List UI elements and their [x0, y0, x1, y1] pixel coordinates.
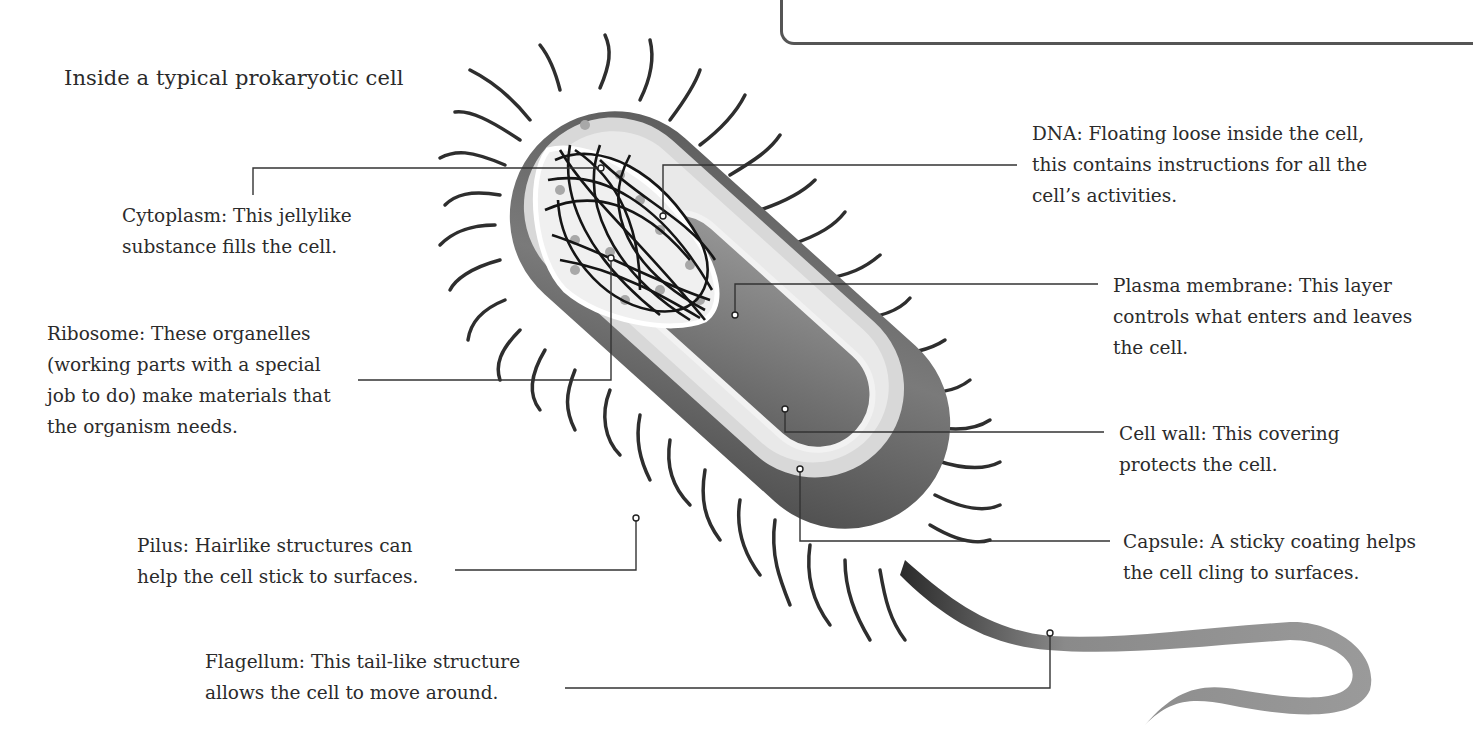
label-pilus: Pilus: Hairlike structures can help the …	[137, 530, 418, 592]
label-cell-wall: Cell wall: This covering protects the ce…	[1119, 418, 1340, 480]
label-capsule: Capsule: A sticky coating helps the cell…	[1123, 526, 1416, 588]
label-dna: DNA: Floating loose inside the cell, thi…	[1032, 118, 1367, 211]
label-flagellum: Flagellum: This tail-like structure allo…	[205, 646, 520, 708]
label-cytoplasm: Cytoplasm: This jellylike substance fill…	[122, 200, 352, 262]
label-ribosome: Ribosome: These organelles (working part…	[47, 318, 331, 442]
leader-pilus	[455, 518, 636, 570]
leader-flagellum	[565, 633, 1050, 688]
label-plasma-membrane: Plasma membrane: This layer controls wha…	[1113, 270, 1412, 363]
